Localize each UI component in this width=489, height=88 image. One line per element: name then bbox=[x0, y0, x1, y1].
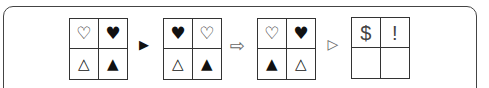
grid-1: ♡ ♥ △ ▲ bbox=[69, 18, 128, 80]
solid-heart-icon: ♥ bbox=[164, 19, 193, 49]
hollow-heart-icon: ♡ bbox=[258, 19, 287, 49]
solid-triangle-icon: ▲ bbox=[99, 49, 128, 79]
arrow-3-glyph: ▷ bbox=[328, 36, 339, 52]
solid-triangle-icon: ▲ bbox=[193, 49, 222, 79]
empty-cell bbox=[352, 48, 381, 78]
empty-cell bbox=[381, 48, 410, 78]
arrow-2-glyph: ⇨ bbox=[229, 35, 244, 56]
dollar-symbol: $ bbox=[352, 18, 381, 48]
solid-right-triangle-icon: ▶ bbox=[136, 36, 152, 52]
grid-3: ♡ ♥ ▲ △ bbox=[257, 18, 316, 80]
hollow-triangle-icon: △ bbox=[164, 49, 193, 79]
hollow-triangle-icon: △ bbox=[70, 49, 99, 79]
exclamation-symbol: ! bbox=[381, 18, 410, 48]
solid-heart-icon: ♥ bbox=[287, 19, 316, 49]
arrow-1-glyph: ▶ bbox=[139, 37, 149, 52]
solid-triangle-icon: ▲ bbox=[258, 49, 287, 79]
hollow-right-arrow-icon: ⇨ bbox=[227, 37, 247, 53]
solid-heart-icon: ♥ bbox=[99, 19, 128, 49]
hollow-heart-icon: ♡ bbox=[193, 19, 222, 49]
grid-2: ♥ ♡ △ ▲ bbox=[163, 18, 222, 80]
hollow-triangle-icon: △ bbox=[287, 49, 316, 79]
grid-4-answer: $ ! bbox=[351, 17, 410, 79]
hollow-right-triangle-icon: ▷ bbox=[325, 36, 341, 52]
hollow-heart-icon: ♡ bbox=[70, 19, 99, 49]
